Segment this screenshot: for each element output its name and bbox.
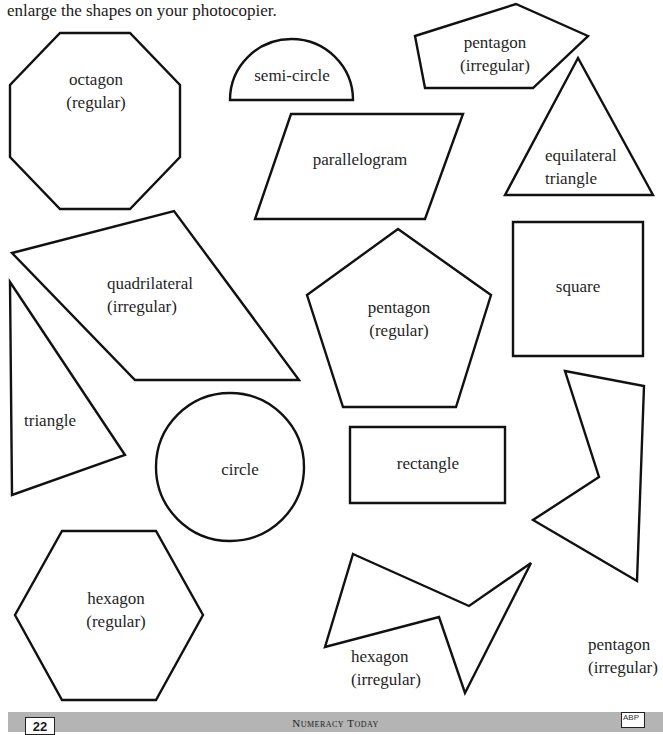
semi-circle-label: semi-circle <box>250 64 334 87</box>
label-line: parallelogram <box>305 148 415 171</box>
square-label: square <box>548 275 608 298</box>
label-line: (irregular) <box>351 668 441 691</box>
footer-series-title: Numeracy Today <box>8 717 663 729</box>
parallelogram-label: parallelogram <box>305 148 415 171</box>
label-line: quadrilateral <box>107 272 207 295</box>
label-line: pentagon <box>363 296 435 319</box>
page-footer: 22 Numeracy Today ABP <box>8 712 663 732</box>
label-line: rectangle <box>390 452 466 475</box>
label-line: triangle <box>24 409 84 432</box>
label-line: octagon <box>60 68 132 91</box>
label-line: pentagon <box>588 633 663 656</box>
label-line: (regular) <box>363 319 435 342</box>
label-line: circle <box>210 458 270 481</box>
label-line: (irregular) <box>588 656 663 679</box>
pentagon-irregular-right-shape <box>533 371 644 581</box>
label-line: (regular) <box>80 610 152 633</box>
hexagon-irregular-label: hexagon (irregular) <box>351 645 441 691</box>
label-line: pentagon <box>455 31 535 54</box>
label-line: triangle <box>545 167 635 190</box>
equilateral-triangle-label: equilateral triangle <box>545 144 635 190</box>
pentagon-regular-label: pentagon (regular) <box>363 296 435 342</box>
label-line: square <box>548 275 608 298</box>
rectangle-label: rectangle <box>390 452 466 475</box>
label-line: equilateral <box>545 144 635 167</box>
octagon-regular-shape <box>10 33 180 209</box>
hexagon-regular-label: hexagon (regular) <box>80 587 152 633</box>
label-line: (irregular) <box>107 295 207 318</box>
label-line: hexagon <box>351 645 441 668</box>
circle-label: circle <box>210 458 270 481</box>
pentagon-irregular-right-label: pentagon (irregular) <box>588 633 663 679</box>
pentagon-irregular-top-label: pentagon (irregular) <box>455 31 535 77</box>
label-line: (irregular) <box>455 54 535 77</box>
label-line: hexagon <box>80 587 152 610</box>
label-line: semi-circle <box>250 64 334 87</box>
quadrilateral-irregular-label: quadrilateral (irregular) <box>107 272 207 318</box>
label-line: (regular) <box>60 91 132 114</box>
publisher-logo: ABP <box>621 712 645 728</box>
octagon-regular-label: octagon (regular) <box>60 68 132 114</box>
triangle-label: triangle <box>24 409 84 432</box>
